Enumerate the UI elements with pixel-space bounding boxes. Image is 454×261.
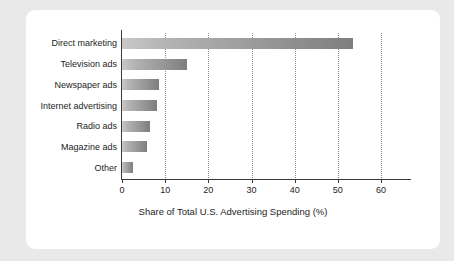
category-label: Newspaper ads <box>54 80 117 90</box>
x-tick-40 <box>295 179 296 183</box>
category-label: Magazine ads <box>61 142 117 152</box>
bar-row <box>122 59 381 70</box>
x-tick-label: 0 <box>107 185 137 196</box>
chart-card: Direct marketingTelevision adsNewspaper … <box>26 10 440 249</box>
x-tick-label: 30 <box>237 185 267 196</box>
bar-series <box>122 33 381 178</box>
bar-radio-ads <box>122 121 150 132</box>
x-tick-30 <box>252 179 253 183</box>
x-tick-60 <box>381 179 382 183</box>
bar-row <box>122 79 381 90</box>
category-axis-labels: Direct marketingTelevision adsNewspaper … <box>26 33 117 178</box>
bar-television-ads <box>122 59 187 70</box>
x-tick-label: 50 <box>323 185 353 196</box>
x-tick-50 <box>338 179 339 183</box>
bar-chart: Direct marketingTelevision adsNewspaper … <box>26 10 440 249</box>
x-tick-10 <box>165 179 166 183</box>
bar-direct-marketing <box>122 38 353 49</box>
bar-newspaper-ads <box>122 79 159 90</box>
x-tick-label: 20 <box>193 185 223 196</box>
bar-row <box>122 38 381 49</box>
bar-internet-advertising <box>122 100 157 111</box>
category-label: Direct marketing <box>51 38 117 48</box>
page-background: Direct marketingTelevision adsNewspaper … <box>0 0 454 261</box>
category-label: Internet advertising <box>40 101 117 111</box>
plot-area <box>122 33 381 178</box>
gridline-60 <box>381 33 382 178</box>
category-label: Television ads <box>60 59 117 69</box>
x-tick-label: 40 <box>280 185 310 196</box>
x-tick-0 <box>122 179 123 183</box>
x-tick-label: 10 <box>150 185 180 196</box>
bar-row <box>122 121 381 132</box>
bar-row <box>122 162 381 173</box>
bar-magazine-ads <box>122 141 147 152</box>
y-axis-line <box>121 30 122 180</box>
x-tick-label: 60 <box>366 185 396 196</box>
x-tick-20 <box>208 179 209 183</box>
x-axis-title: Share of Total U.S. Advertising Spending… <box>26 206 440 217</box>
bar-other <box>122 162 133 173</box>
category-label: Other <box>94 163 117 173</box>
category-label: Radio ads <box>76 121 117 131</box>
bar-row <box>122 141 381 152</box>
bar-row <box>122 100 381 111</box>
